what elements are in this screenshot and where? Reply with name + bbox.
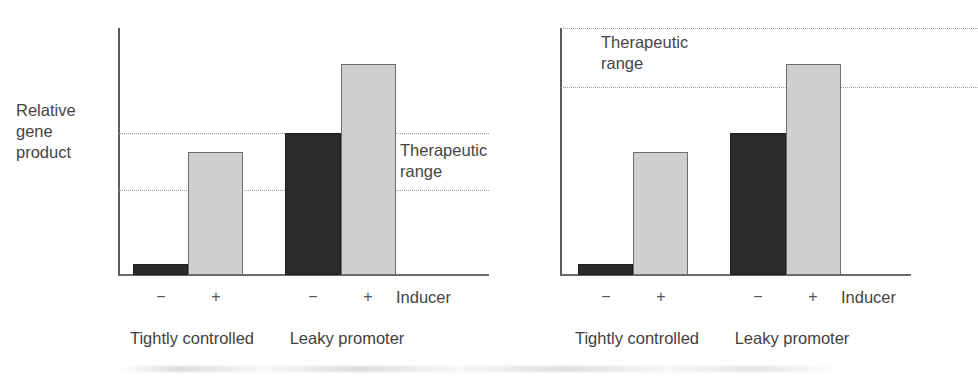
tick-label-leaky-promoter-plus: + — [801, 288, 825, 306]
bar-tightly-controlled-uninduced — [133, 264, 188, 275]
therapeutic-range-upper-gridline — [561, 28, 978, 30]
x-axis-title: Inducer — [396, 288, 451, 307]
tick-label-leaky-promoter-minus: − — [301, 288, 325, 306]
y-axis-line — [560, 28, 562, 276]
bar-tightly-controlled-induced — [633, 152, 688, 275]
bar-leaky-promoter-uninduced — [730, 133, 786, 275]
tick-label-leaky-promoter-plus: + — [356, 288, 380, 306]
figure-container: Relative gene product Therapeutic range … — [0, 0, 978, 379]
bar-tightly-controlled-uninduced — [578, 264, 633, 275]
tick-label-tightly-controlled-plus: + — [649, 288, 673, 306]
tick-label-tightly-controlled-minus: − — [594, 288, 618, 306]
chart-panel-left: Relative gene product Therapeutic range … — [0, 0, 489, 379]
tick-label-leaky-promoter-minus: − — [746, 288, 770, 306]
y-axis-line — [118, 28, 120, 276]
bar-leaky-promoter-induced — [341, 64, 396, 275]
group-label-tightly-controlled: Tightly controlled — [553, 329, 721, 348]
y-axis-label: Relative gene product — [16, 100, 111, 163]
therapeutic-range-label: Therapeutic range — [601, 32, 688, 74]
tick-label-tightly-controlled-plus: + — [204, 288, 228, 306]
bar-tightly-controlled-induced — [188, 152, 243, 275]
group-label-tightly-controlled: Tightly controlled — [108, 329, 276, 348]
group-label-leaky-promoter: Leaky promoter — [712, 329, 872, 348]
bar-leaky-promoter-uninduced — [285, 133, 341, 275]
bar-leaky-promoter-induced — [786, 64, 841, 275]
therapeutic-range-lower-gridline — [561, 87, 978, 89]
chart-panel-right: Therapeutic range − + − + Inducer Tightl… — [489, 0, 978, 379]
x-axis-title: Inducer — [841, 288, 896, 307]
tick-label-tightly-controlled-minus: − — [149, 288, 173, 306]
scan-artifact — [120, 366, 840, 372]
therapeutic-range-label: Therapeutic range — [400, 140, 487, 182]
group-label-leaky-promoter: Leaky promoter — [267, 329, 427, 348]
